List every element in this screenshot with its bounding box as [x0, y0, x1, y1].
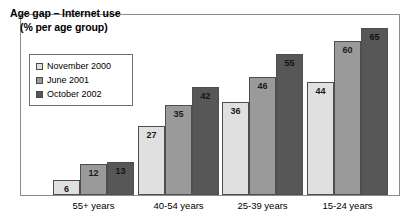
- bar-value-label: 27: [146, 130, 156, 140]
- bar: 55: [276, 54, 303, 195]
- bar: 35: [165, 105, 192, 195]
- bar: 13: [107, 162, 134, 195]
- bar: 46: [249, 77, 276, 195]
- x-axis-category-label: 55+ years: [53, 200, 134, 211]
- bar: 6: [53, 180, 80, 195]
- bar: 36: [222, 102, 249, 195]
- bar-group: 273542: [138, 15, 219, 195]
- bar-value-label: 6: [64, 184, 69, 194]
- x-axis-category-label: 15-24 years: [307, 200, 388, 211]
- bar: 42: [192, 87, 219, 195]
- bar: 12: [80, 164, 107, 195]
- bar-group: 61213: [53, 15, 134, 195]
- bar: 27: [138, 126, 165, 195]
- chart-figure: Age gap – Internet use (% per age group)…: [0, 0, 419, 222]
- bar: 44: [307, 82, 334, 195]
- bar-value-label: 65: [369, 32, 379, 42]
- bar: 65: [361, 28, 388, 195]
- bar-value-label: 13: [115, 166, 125, 176]
- x-axis-category-label: 25-39 years: [222, 200, 303, 211]
- bar-group: 364655: [222, 15, 303, 195]
- bar-group: 446065: [307, 15, 388, 195]
- bar-value-label: 55: [284, 58, 294, 68]
- bar-value-label: 12: [88, 168, 98, 178]
- bar-value-label: 36: [230, 106, 240, 116]
- bar-value-label: 46: [257, 81, 267, 91]
- bar-value-label: 35: [173, 109, 183, 119]
- bar: 60: [334, 41, 361, 195]
- x-axis-category-label: 40-54 years: [138, 200, 219, 211]
- bar-value-label: 60: [342, 45, 352, 55]
- bar-value-label: 42: [200, 91, 210, 101]
- bar-value-label: 44: [315, 86, 325, 96]
- bars-area: 61213273542364655446065: [21, 15, 399, 195]
